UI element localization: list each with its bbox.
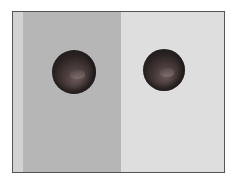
right-sphere <box>143 49 185 91</box>
light-background-panel <box>121 12 224 172</box>
sphere-highlight <box>160 68 175 77</box>
image-frame <box>12 11 225 173</box>
left-edge-strip <box>13 12 23 172</box>
left-sphere <box>52 50 96 94</box>
sphere-highlight <box>70 70 85 80</box>
